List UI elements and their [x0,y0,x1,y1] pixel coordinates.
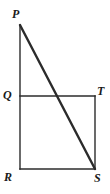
geometry-figure: P Q T R S [0,0,110,194]
vertex-label-s: S [94,172,101,184]
vertex-label-p: P [12,8,19,20]
vertex-label-r: R [4,171,12,183]
segment-ps [20,25,95,169]
vertex-label-t: T [97,85,104,97]
vertex-label-q: Q [3,89,12,101]
figure-canvas [0,0,110,194]
